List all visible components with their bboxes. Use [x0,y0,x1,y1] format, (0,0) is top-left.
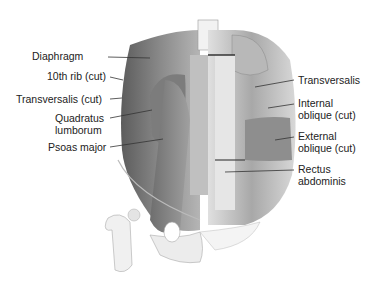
left-posterior-wall [121,30,200,233]
label-internal-oblique-2: oblique (cut) [298,109,356,121]
label-transversalis: Transversalis [298,74,360,86]
label-external-oblique-1: External [298,130,337,142]
label-diaphragm: Diaphragm [32,50,83,62]
label-quadratus-lumborum-2: lumborum [55,124,102,136]
label-psoas-major: Psoas major [48,141,106,153]
right-anterior-wall [208,30,296,225]
label-rectus-abdominis-1: Rectus [298,163,331,175]
label-external-oblique-2: oblique (cut) [298,142,356,154]
label-internal-oblique-1: Internal [298,97,333,109]
label-10th-rib-cut: 10th rib (cut) [47,70,106,82]
label-transversalis-cut: Transversalis (cut) [16,93,102,105]
label-quadratus-lumborum-1: Quadratus [55,112,104,124]
label-rectus-abdominis-2: abdominis [298,175,346,187]
